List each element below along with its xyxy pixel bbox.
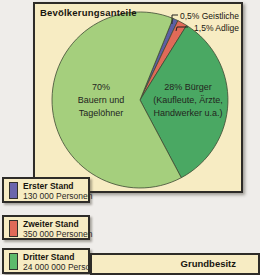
population-share-panel: Bevölkerungsanteile 0,5% Geistliche 1,5%… [33, 2, 243, 193]
slice-label-buerger-line1: 28% Bürger [143, 81, 233, 94]
callout-label-geistliche: 0,5% Geistliche [180, 11, 239, 21]
chart-title: Bevölkerungsanteile [40, 7, 137, 18]
legend-count: 130 000 Personen [23, 191, 92, 201]
legend-swatch-zweiter-stand [9, 220, 18, 237]
legend-swatch-dritter-stand [9, 253, 18, 270]
callout-label-adlige: 1,5% Adlige [194, 23, 239, 33]
legend-name: Zweiter Stand [23, 219, 79, 229]
legend-name: Dritter Stand [23, 252, 74, 262]
slice-label-bauern-line2: Bauern und [61, 94, 141, 107]
slice-label-bauern: 70% Bauern und Tagelöhner [61, 81, 141, 120]
legend-item-dritter-stand: Dritter Stand 24 000 000 Personen [2, 248, 90, 274]
grundbesitz-title: Grundbesitz [181, 258, 236, 269]
slice-label-bauern-line1: 70% [61, 81, 141, 94]
legend-count: 350 000 Personen [23, 229, 92, 239]
slice-label-buerger-line3: Handwerker u.a.) [143, 107, 233, 120]
legend-item-erster-stand: Erster Stand 130 000 Personen [2, 177, 90, 203]
legend-swatch-erster-stand [9, 182, 18, 199]
slice-label-buerger-line2: (Kaufleute, Ärzte, [143, 94, 233, 107]
grundbesitz-panel: Grundbesitz [90, 253, 260, 275]
slice-label-buerger: 28% Bürger (Kaufleute, Ärzte, Handwerker… [143, 81, 233, 120]
legend-item-zweiter-stand: Zweiter Stand 350 000 Personen [2, 215, 90, 240]
slice-label-bauern-line3: Tagelöhner [61, 107, 141, 120]
legend-name: Erster Stand [23, 181, 74, 191]
